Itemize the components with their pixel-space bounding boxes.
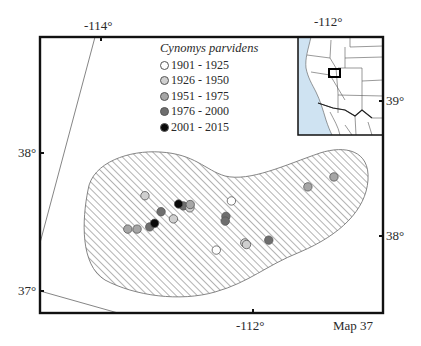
record-point	[157, 208, 165, 216]
record-point	[227, 197, 235, 205]
legend: Cynomys parvidens 1901 - 1925 1926 - 195…	[160, 41, 258, 135]
legend-swatch	[160, 92, 169, 101]
record-point	[242, 240, 250, 248]
record-point	[221, 217, 229, 225]
lon-label-top-left: -114°	[84, 18, 113, 34]
lat-label-left-upper: 38°	[18, 145, 36, 161]
legend-swatch	[160, 61, 169, 70]
lat-label-left-lower: 37°	[18, 283, 36, 299]
legend-label: 1951 - 1975	[171, 89, 229, 105]
record-point	[186, 200, 194, 208]
legend-item: 1926 - 1950	[160, 73, 258, 89]
legend-item: 1951 - 1975	[160, 89, 258, 105]
record-point	[265, 236, 273, 244]
record-point	[330, 173, 338, 181]
legend-label: 1926 - 1950	[171, 73, 229, 89]
lat-label-right-upper: 39°	[386, 93, 404, 109]
legend-item: 1976 - 2000	[160, 104, 258, 120]
legend-label: 2001 - 2015	[171, 120, 229, 136]
lat-label-right-lower: 38°	[386, 228, 404, 244]
record-point	[304, 183, 312, 191]
record-point	[141, 192, 149, 200]
legend-label: 1976 - 2000	[171, 104, 229, 120]
record-point	[212, 246, 220, 254]
legend-swatch	[160, 107, 169, 116]
legend-title: Cynomys parvidens	[160, 41, 258, 57]
lon-label-bottom: -112°	[236, 318, 265, 334]
record-point	[150, 219, 158, 227]
legend-item: 1901 - 1925	[160, 58, 258, 74]
legend-swatch	[160, 123, 169, 132]
state-boundary-line	[40, 291, 118, 313]
map-number-label: Map 37	[333, 318, 373, 334]
record-point	[133, 225, 141, 233]
record-point	[169, 215, 177, 223]
record-point	[124, 225, 132, 233]
lon-label-top-right: -112°	[314, 14, 343, 30]
legend-item: 2001 - 2015	[160, 120, 258, 136]
legend-swatch	[160, 76, 169, 85]
legend-label: 1901 - 1925	[171, 58, 229, 74]
record-point	[174, 200, 182, 208]
inset-map	[298, 37, 383, 135]
